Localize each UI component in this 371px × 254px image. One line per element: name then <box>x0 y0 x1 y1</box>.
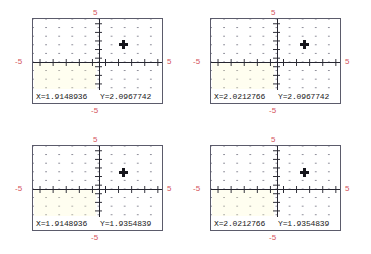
axis-label-left: -5 <box>15 184 22 193</box>
x-coordinate-value: X=1.9148936 <box>33 92 98 101</box>
graph-cursor[interactable] <box>119 168 128 177</box>
x-axis-line <box>211 189 340 190</box>
y-coordinate-value: Y=1.9354839 <box>98 219 151 228</box>
axis-label-top: 5 <box>271 135 275 144</box>
axis-label-left: -5 <box>193 57 200 66</box>
coordinate-readout: X=2.0212766 Y=1.9354839 <box>211 217 340 230</box>
graph-viewport[interactable]: X=1.9148936 Y=1.9354839 <box>32 145 163 231</box>
x-coordinate-value: X=1.9148936 <box>33 219 98 228</box>
x-coordinate-value: X=2.0212766 <box>211 219 276 228</box>
coordinate-readout: X=2.0212766 Y=2.0967742 <box>211 90 340 103</box>
coordinate-readout: X=1.9148936 Y=2.0967742 <box>33 90 162 103</box>
axis-label-bottom: -5 <box>91 233 98 242</box>
axis-label-right: 5 <box>345 184 349 193</box>
x-axis-line <box>33 62 162 63</box>
y-coordinate-value: Y=2.0967742 <box>98 92 151 101</box>
axis-label-top: 5 <box>93 8 97 17</box>
axis-label-top: 5 <box>271 8 275 17</box>
graph-cursor[interactable] <box>300 40 309 49</box>
calculator-screen-bottom-right[interactable]: 5 -5 -5 5 X=2.0212766 Y=1.9354839 <box>178 127 356 254</box>
graph-viewport[interactable]: X=2.0212766 Y=2.0967742 <box>210 18 341 104</box>
axis-label-right: 5 <box>167 57 171 66</box>
y-coordinate-value: Y=1.9354839 <box>276 219 329 228</box>
axis-label-bottom: -5 <box>269 106 276 115</box>
axis-label-right: 5 <box>345 57 349 66</box>
calculator-screen-top-left[interactable]: 5 -5 -5 5 X=1.9148936 Y=2.0967742 <box>0 0 178 127</box>
x-coordinate-value: X=2.0212766 <box>211 92 276 101</box>
graph-cursor[interactable] <box>119 40 128 49</box>
calculator-screens-grid: 5 -5 -5 5 X=1.9148936 Y=2.0967742 5 -5 -… <box>0 0 371 254</box>
axis-label-bottom: -5 <box>269 233 276 242</box>
coordinate-readout: X=1.9148936 Y=1.9354839 <box>33 217 162 230</box>
calculator-screen-bottom-left[interactable]: 5 -5 -5 5 X=1.9148936 Y=1.9354839 <box>0 127 178 254</box>
graph-viewport[interactable]: X=1.9148936 Y=2.0967742 <box>32 18 163 104</box>
graph-cursor[interactable] <box>300 168 309 177</box>
axis-label-left: -5 <box>15 57 22 66</box>
calculator-screen-top-right[interactable]: 5 -5 -5 5 X=2.0212766 Y=2.0967742 <box>178 0 356 127</box>
graph-viewport[interactable]: X=2.0212766 Y=1.9354839 <box>210 145 341 231</box>
axis-label-right: 5 <box>167 184 171 193</box>
x-axis-line <box>33 189 162 190</box>
y-coordinate-value: Y=2.0967742 <box>276 92 329 101</box>
axis-label-top: 5 <box>93 135 97 144</box>
axis-label-bottom: -5 <box>91 106 98 115</box>
x-axis-line <box>211 62 340 63</box>
axis-label-left: -5 <box>193 184 200 193</box>
